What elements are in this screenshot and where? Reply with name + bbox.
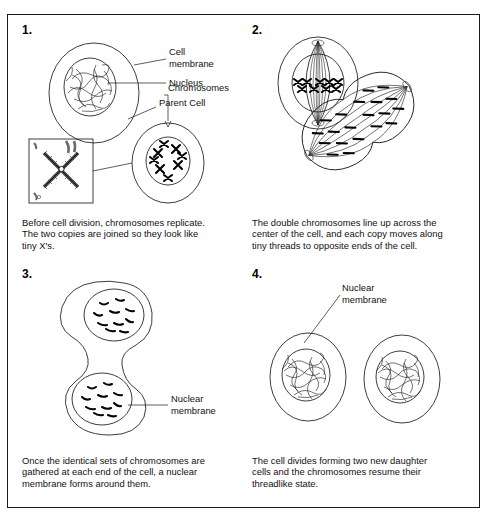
upper-nucleus-chromosomes: [94, 299, 134, 332]
magnified-chromosome: [34, 141, 79, 200]
panel-2-artwork: [246, 21, 474, 221]
label-cell-membrane-line2: membrane: [169, 58, 214, 69]
panel-3: 3.: [16, 265, 244, 503]
panel-4: 4. Nuclear membrane: [246, 265, 474, 503]
label-parent-cell: Parent Cell: [159, 97, 205, 108]
daughter-cell-1: [270, 333, 346, 421]
panel-1-artwork: Cell membrane Nucleus Parent Cell: [16, 21, 244, 221]
diagram-frame: 1.: [7, 14, 480, 508]
chromatin-threads-2: [376, 355, 420, 401]
label-cell-membrane-line1: Cell: [169, 46, 185, 57]
label-nuclear-membrane-line2: membrane: [171, 405, 216, 416]
panel-1: 1.: [16, 21, 244, 263]
chromatin-threads: [66, 65, 112, 112]
chromatin-threads-1: [282, 353, 326, 399]
panel-2-caption: The double chromosomes line up across th…: [252, 217, 470, 251]
daughter-cell-2: [364, 335, 440, 423]
panel-3-artwork: Nuclear membrane: [16, 265, 244, 465]
lower-nucleus-chromosomes: [82, 383, 122, 416]
panel-3-caption: Once the identical sets of chromosomes a…: [22, 455, 240, 489]
panel-4-caption: The cell divides forming two new daughte…: [252, 455, 470, 489]
label-nuclear-membrane-line2: membrane: [342, 294, 387, 305]
panel-2: 2.: [246, 21, 474, 263]
label-chromosomes: Chromosomes: [168, 82, 229, 93]
label-nuclear-membrane-line1: Nuclear: [342, 282, 374, 293]
x-chromosomes: [150, 141, 186, 181]
panel-1-caption: Before cell division, chromosomes replic…: [22, 217, 240, 251]
label-nuclear-membrane-line1: Nuclear: [171, 393, 203, 404]
panel-4-artwork: Nuclear membrane: [246, 265, 474, 465]
